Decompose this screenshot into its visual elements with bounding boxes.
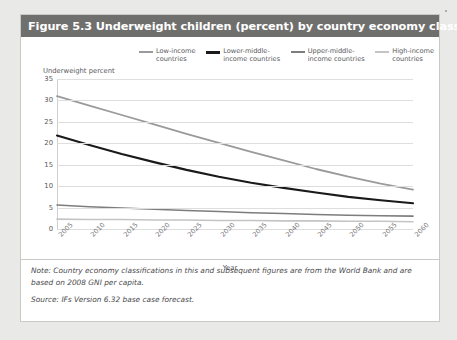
y-axis-tick-label: 10 <box>44 182 53 190</box>
legend-swatch-icon <box>291 51 305 53</box>
y-axis-tick-label: 15 <box>44 161 53 169</box>
notes-divider <box>21 259 439 260</box>
chart-area: Low-income countriesLower-middle- income… <box>21 37 439 281</box>
gridline <box>57 100 413 101</box>
figure-notes: Note: Country economy classifications in… <box>31 265 429 312</box>
legend-label: Lower-middle- income countries <box>223 47 280 64</box>
y-axis-tick-label: 20 <box>44 139 53 147</box>
y-axis-tick-label: 5 <box>49 204 53 212</box>
legend-item[interactable]: Low-income countries <box>139 47 196 64</box>
legend-swatch-icon <box>375 51 389 53</box>
gridline <box>57 165 413 166</box>
chart-lines <box>57 79 413 229</box>
chart-legend: Low-income countriesLower-middle- income… <box>139 47 434 64</box>
legend-label: High-income countries <box>392 47 434 64</box>
plot-region: 0510152025303520052010201520202025203020… <box>57 79 413 229</box>
legend-label: Low-income countries <box>156 47 196 64</box>
y-axis-tick-label: 35 <box>44 75 53 83</box>
y-axis-title: Underweight percent <box>43 67 115 75</box>
figure-container: Figure 5.3 Underweight children (percent… <box>20 14 440 322</box>
y-axis-tick-label: 30 <box>44 96 53 104</box>
page-marker-dot <box>445 10 447 12</box>
gridline <box>57 143 413 144</box>
legend-label: Upper-middle- income countries <box>308 47 365 64</box>
legend-swatch-icon <box>139 51 153 53</box>
source-text: Source: IFs Version 6.32 base case forec… <box>31 294 429 306</box>
gridline <box>57 208 413 209</box>
gridline <box>57 79 413 80</box>
legend-item[interactable]: Lower-middle- income countries <box>206 47 280 64</box>
x-axis-tick-label: 2060 <box>413 221 431 239</box>
y-axis-tick-label: 25 <box>44 118 53 126</box>
legend-item[interactable]: Upper-middle- income countries <box>291 47 365 64</box>
series-line <box>57 136 413 204</box>
figure-title: Figure 5.3 Underweight children (percent… <box>21 15 439 37</box>
y-axis-tick-label: 0 <box>49 225 53 233</box>
legend-item[interactable]: High-income countries <box>375 47 434 64</box>
gridline <box>57 122 413 123</box>
note-text: Note: Country economy classifications in… <box>31 265 429 288</box>
legend-swatch-icon <box>206 51 220 54</box>
gridline <box>57 186 413 187</box>
